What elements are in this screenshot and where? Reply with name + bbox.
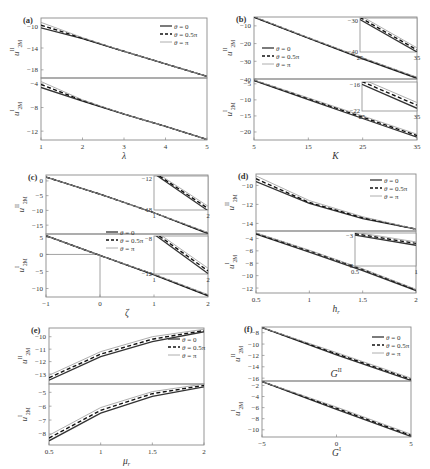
y-axis-label: uI2M — [222, 102, 236, 116]
legend-entry-label: θ = 0.5π — [276, 53, 300, 61]
y-tick-label: −6 — [246, 247, 254, 255]
x-tick-label: 2 — [81, 143, 85, 151]
x-axis-label: K — [331, 151, 339, 161]
y-tick-label: −11 — [35, 346, 46, 354]
inset-xtick: 35 — [414, 113, 421, 120]
y-tick-label: 0 — [40, 177, 44, 185]
inset-ytick: −8 — [145, 235, 152, 242]
y-tick-label: −4 — [31, 80, 39, 88]
y-axis-label: uI2M — [14, 258, 28, 272]
lower-subplot: −5−10−15−20uI2M−16−222535 — [222, 79, 420, 140]
x-axis-label: GI — [332, 446, 341, 458]
y-tick-label: 5 — [40, 234, 44, 242]
y-tick-label: −10 — [240, 96, 251, 104]
x-tick-label: 35 — [414, 143, 422, 151]
inset-ytick: −30 — [348, 17, 358, 24]
y-tick-label: −5 — [36, 192, 44, 200]
y-tick-label: −14 — [27, 45, 38, 53]
y-tick-label: −10 — [248, 341, 259, 349]
y-axis-label: uII2M — [222, 40, 236, 56]
x-tick-label: 15 — [305, 143, 313, 151]
x-tick-label: 5 — [205, 143, 209, 151]
series-line-theta-0-5pi — [49, 385, 204, 438]
y-tick-label: −8 — [252, 415, 260, 423]
x-tick-label: 2 — [206, 300, 210, 308]
inset-xtick: 25 — [359, 113, 366, 120]
inset-xtick: 2 — [206, 212, 209, 219]
legend-entry-label: θ = π — [384, 193, 399, 201]
lower-subplot: −4−8−12uI2M — [9, 78, 207, 140]
panel-f: (f)−8−10−12−14−16uII2MGII−2−4−6−8−10uI2M… — [230, 324, 413, 458]
y-tick-label: −12 — [35, 358, 46, 366]
x-tick-label: 5 — [252, 143, 256, 151]
x-tick-label: 1 — [308, 296, 312, 304]
upper-subplot: −8−10−12−14−16uII2MGII — [230, 327, 411, 383]
y-axis-label: uII2M — [230, 346, 244, 362]
legend-entry-label: θ = 0 — [120, 229, 135, 237]
y-tick-label: −12 — [248, 352, 259, 360]
y-axis-label: uII2M — [14, 196, 28, 212]
series-line-theta-0 — [262, 382, 411, 437]
y-axis-label: uI2M — [224, 255, 238, 269]
x-tick-label: 0.5 — [252, 296, 261, 304]
legend-entry-label: θ = 0.5π — [182, 344, 206, 352]
y-axis-label: uI2M — [9, 102, 23, 116]
y-tick-label: −10 — [32, 207, 43, 215]
x-tick-label: 5 — [409, 440, 413, 448]
y-tick-label: −30 — [240, 58, 251, 66]
upper-subplot: −10−20−30−40uII2M−30−402535 — [222, 15, 420, 83]
panel-c: (c)0−5−10−15uII2M−12−181250−5−10uI2M−8−1… — [14, 171, 210, 319]
y-tick-label: −15 — [240, 112, 251, 120]
axes-frame — [49, 384, 204, 445]
legend-entry-label: θ = π — [174, 39, 189, 47]
x-axis-label: μr — [122, 456, 131, 467]
upper-subplot: 0−5−10−15uII2M−12−1812 — [14, 171, 210, 234]
inset-xtick: 2 — [206, 276, 209, 283]
x-tick-label: 1 — [99, 448, 103, 456]
legend-entry-label: θ = 0 — [174, 23, 189, 31]
inset-xtick: 35 — [414, 54, 421, 61]
series-line-theta-0 — [49, 332, 204, 381]
panel-label: (c) — [28, 172, 38, 182]
y-tick-label: −10 — [242, 182, 253, 190]
inset-ytick: −3 — [346, 232, 353, 239]
panel-b: (b)−10−20−30−40uII2M−30−402535−5−10−15−2… — [222, 14, 421, 161]
y-axis-label: uII2M — [224, 194, 238, 210]
inset-ytick: −12 — [142, 270, 152, 277]
y-tick-label: −12 — [242, 201, 253, 209]
panel-label: (d) — [238, 171, 249, 181]
inset-xtick: 0.5 — [351, 268, 359, 275]
g-ii-annotation: GII — [331, 367, 342, 379]
y-tick-label: −8 — [246, 260, 254, 268]
y-tick-label: −5 — [244, 80, 252, 88]
y-tick-label: −8 — [252, 329, 260, 337]
y-tick-label: −10 — [240, 22, 251, 30]
x-tick-label: 1.5 — [358, 296, 367, 304]
inset-ytick: −12 — [142, 175, 152, 182]
inset-xtick: 1 — [152, 212, 155, 219]
x-tick-label: 2 — [202, 448, 206, 456]
legend-entry-label: θ = π — [182, 352, 197, 360]
legend-entry-label: θ = 0.5π — [174, 31, 198, 39]
x-tick-label: 1.5 — [148, 448, 157, 456]
y-tick-label: −8 — [31, 104, 39, 112]
series-line-theta-pi — [41, 82, 207, 140]
y-tick-label: −18 — [27, 66, 38, 74]
legend-entry-label: θ = 0 — [276, 45, 291, 53]
y-axis-label: uI2M — [17, 407, 31, 421]
lower-subplot: −2−4−6−8−10uI2M — [230, 381, 411, 437]
y-tick-label: −13 — [35, 371, 46, 379]
y-tick-label: −8 — [39, 430, 47, 438]
x-tick-label: 2 — [414, 296, 418, 304]
panel-d: (d)−10−12−14uII2M−4−6−8−10−12uI2M−3−80.5… — [224, 171, 418, 315]
y-tick-label: −4 — [252, 393, 260, 401]
inset-ytick: −16 — [350, 81, 361, 88]
inset-xtick: 1 — [152, 276, 155, 283]
inset-ytick: −18 — [142, 206, 152, 213]
legend-entry-label: θ = 0.5π — [384, 185, 408, 193]
x-tick-label: 25 — [359, 143, 367, 151]
y-tick-label: −12 — [242, 285, 253, 293]
x-tick-label: −1 — [42, 300, 50, 308]
legend-entry-label: θ = 0 — [182, 336, 197, 344]
y-tick-label: −6 — [39, 403, 47, 411]
